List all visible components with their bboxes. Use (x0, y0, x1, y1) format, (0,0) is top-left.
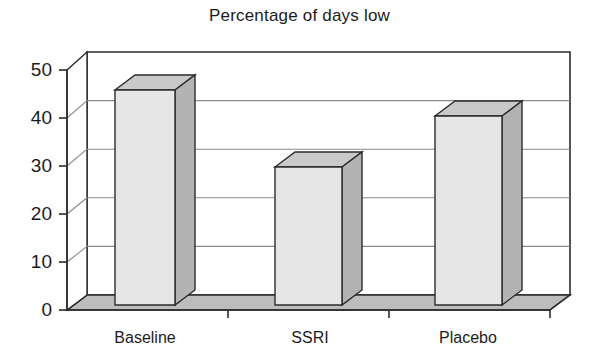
bar-ssri[interactable] (275, 152, 362, 305)
x-axis-ticks (228, 310, 550, 318)
y-axis-label-0: 0 (6, 300, 52, 319)
bar-chart: Percentage of days low (0, 0, 599, 358)
bar-front-face (115, 90, 175, 305)
bar-side-face (502, 101, 522, 305)
y-axis-label-40: 40 (6, 108, 52, 127)
bar-front-face (275, 167, 342, 305)
y-axis-label-10: 10 (6, 252, 52, 271)
y-axis-label-20: 20 (6, 204, 52, 223)
x-axis-label-ssri: SSRI (250, 330, 370, 346)
bar-baseline[interactable] (115, 75, 195, 305)
bar-side-face (175, 75, 195, 305)
x-axis-label-baseline: Baseline (85, 330, 205, 346)
plot-area (0, 0, 599, 358)
y-axis-ticks (59, 70, 67, 310)
x-axis-label-placebo: Placebo (408, 330, 528, 346)
left-wall (67, 52, 87, 310)
bar-placebo[interactable] (435, 101, 522, 305)
y-axis-label-30: 30 (6, 156, 52, 175)
bar-front-face (435, 116, 502, 305)
bar-side-face (342, 152, 362, 305)
y-axis-label-50: 50 (6, 60, 52, 79)
